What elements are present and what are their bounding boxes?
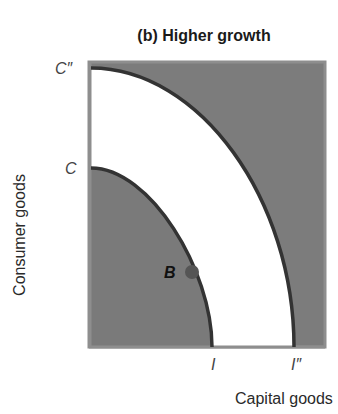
x-axis-label: Capital goods (235, 390, 333, 408)
y-tick-c-double-prime: C″ (55, 60, 72, 78)
x-tick-i: I (211, 356, 215, 374)
y-axis-label: Consumer goods (10, 140, 30, 330)
point-b-marker (185, 265, 199, 279)
point-b-label: B (164, 264, 176, 282)
x-tick-i-double-prime: I″ (291, 356, 301, 374)
ppf-diagram (0, 0, 338, 414)
y-tick-c: C (65, 160, 77, 178)
